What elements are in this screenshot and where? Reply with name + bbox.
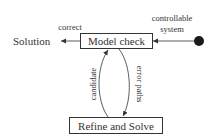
model-check-node: Model check bbox=[81, 34, 153, 49]
error-paths-arrow bbox=[119, 49, 129, 116]
candidate-arrow bbox=[99, 50, 108, 117]
error-paths-label: error paths bbox=[135, 66, 145, 103]
refine-solve-node: Refine and Solve bbox=[70, 118, 163, 134]
controllable-label-line1: controllable bbox=[152, 13, 193, 23]
correct-label: correct bbox=[58, 22, 82, 32]
solution-label: Solution bbox=[13, 35, 51, 47]
refine-solve-label: Refine and Solve bbox=[78, 120, 154, 132]
diagram-canvas: Model check Refine and Solve Solution co… bbox=[0, 0, 215, 140]
controllable-label-line2: system bbox=[160, 24, 184, 34]
start-dot-icon bbox=[194, 36, 204, 46]
candidate-label: candidate bbox=[88, 67, 98, 100]
model-check-label: Model check bbox=[88, 35, 146, 47]
